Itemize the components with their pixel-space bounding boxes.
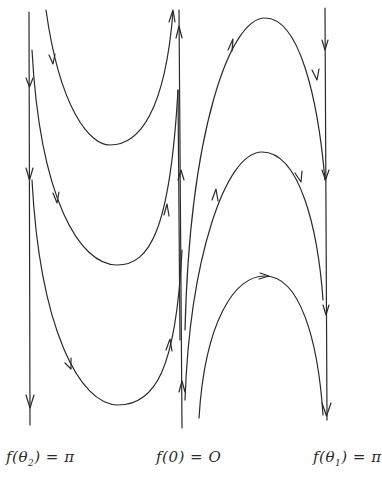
label-right-prefix: f(θ <box>313 448 335 466</box>
u-curve-3 <box>32 180 182 405</box>
label-center-text: f(0) = O <box>156 448 221 466</box>
right-vertical-separatrix <box>322 8 331 420</box>
left-vertical-separatrix <box>26 12 34 425</box>
arrow-up-icon <box>164 204 169 216</box>
label-f-zero: f(0) = O <box>156 448 221 466</box>
u-curve-1 <box>46 10 175 145</box>
arch-1 <box>185 18 325 330</box>
label-right-suffix: ) = π <box>341 448 381 466</box>
label-f-theta2: f(θ2) = π <box>6 448 75 468</box>
label-left-suffix: ) = π <box>34 448 74 466</box>
arrow-up-icon <box>212 189 218 201</box>
label-f-theta1: f(θ1) = π <box>313 448 382 468</box>
arch-3 <box>199 273 323 418</box>
arrow-down-icon <box>49 54 55 64</box>
center-vertical-separatrix <box>176 10 185 428</box>
arrow-down-icon <box>312 69 319 80</box>
label-left-prefix: f(θ <box>6 448 28 466</box>
u-curve-2 <box>32 50 178 265</box>
arrow-right-icon <box>228 39 233 51</box>
